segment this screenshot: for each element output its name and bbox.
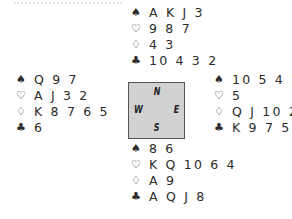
- west-diamonds-row: ♢ K 8 7 6 5: [16, 104, 110, 120]
- north-diamonds: 4 3: [149, 37, 175, 53]
- south-hand: ♠ 8 6 ♡ K Q 10 6 4 ♢ A 9 ♣ A Q J 8: [131, 141, 237, 205]
- club-icon: ♣: [131, 53, 149, 69]
- east-diamonds-row: ♢ Q J 10 2: [214, 104, 292, 120]
- north-hand: ♠ A K J 3 ♡ 9 8 7 ♢ 4 3 ♣ 10 4 3 2: [131, 5, 218, 69]
- club-icon: ♣: [214, 120, 232, 136]
- south-diamonds-row: ♢ A 9: [131, 173, 237, 189]
- west-clubs-row: ♣ 6: [16, 120, 110, 136]
- north-hearts: 9 8 7: [149, 21, 192, 37]
- spade-icon: ♠: [131, 141, 149, 157]
- diamond-icon: ♢: [16, 104, 34, 120]
- clipped-caption-text: [14, 0, 122, 4]
- compass-west-label: W: [134, 104, 143, 115]
- north-spades-row: ♠ A K J 3: [131, 5, 218, 21]
- diamond-icon: ♢: [214, 104, 232, 120]
- east-hand: ♠ 10 5 4 2 ♡ 5 ♢ Q J 10 2 ♣ K 9 7 5: [214, 72, 292, 136]
- south-hearts: K Q 10 6 4: [149, 157, 237, 173]
- west-hearts-row: ♡ A J 3 2: [16, 88, 110, 104]
- spade-icon: ♠: [16, 72, 34, 88]
- east-clubs: K 9 7 5: [232, 120, 291, 136]
- north-diamonds-row: ♢ 4 3: [131, 37, 218, 53]
- south-spades: 8 6: [149, 141, 175, 157]
- compass-south-label: S: [154, 122, 160, 133]
- west-spades-row: ♠ Q 9 7: [16, 72, 110, 88]
- west-hand: ♠ Q 9 7 ♡ A J 3 2 ♢ K 8 7 6 5 ♣ 6: [16, 72, 110, 136]
- heart-icon: ♡: [214, 88, 232, 104]
- east-spades-row: ♠ 10 5 4 2: [214, 72, 292, 88]
- compass-north-label: N: [154, 86, 161, 97]
- south-diamonds: A 9: [149, 173, 176, 189]
- north-hearts-row: ♡ 9 8 7: [131, 21, 218, 37]
- club-icon: ♣: [131, 189, 149, 205]
- north-clubs: 10 4 3 2: [149, 53, 218, 69]
- north-clubs-row: ♣ 10 4 3 2: [131, 53, 218, 69]
- west-clubs: 6: [34, 120, 44, 136]
- west-diamonds: K 8 7 6 5: [34, 104, 110, 120]
- west-spades: Q 9 7: [34, 72, 79, 88]
- spade-icon: ♠: [214, 72, 232, 88]
- south-hearts-row: ♡ K Q 10 6 4: [131, 157, 237, 173]
- east-diamonds: Q J 10 2: [232, 104, 292, 120]
- heart-icon: ♡: [131, 157, 149, 173]
- south-spades-row: ♠ 8 6: [131, 141, 237, 157]
- east-hearts-row: ♡ 5: [214, 88, 292, 104]
- club-icon: ♣: [16, 120, 34, 136]
- north-spades: A K J 3: [149, 5, 205, 21]
- east-spades: 10 5 4 2: [232, 72, 292, 88]
- west-hearts: A J 3 2: [34, 88, 89, 104]
- south-clubs-row: ♣ A Q J 8: [131, 189, 237, 205]
- south-clubs: A Q J 8: [149, 189, 206, 205]
- east-hearts: 5: [232, 88, 242, 104]
- spade-icon: ♠: [131, 5, 149, 21]
- heart-icon: ♡: [131, 21, 149, 37]
- compass-east-label: E: [174, 104, 179, 115]
- heart-icon: ♡: [16, 88, 34, 104]
- diamond-icon: ♢: [131, 173, 149, 189]
- compass-box: N W E S: [128, 82, 185, 139]
- east-clubs-row: ♣ K 9 7 5: [214, 120, 292, 136]
- diamond-icon: ♢: [131, 37, 149, 53]
